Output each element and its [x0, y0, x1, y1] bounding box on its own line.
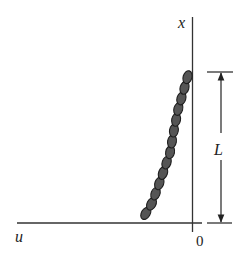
origin-label: 0	[196, 233, 204, 249]
x-axis-label: x	[177, 14, 185, 31]
u-axis-label: u	[15, 228, 23, 245]
hanging-chain-diagram: x u 0 L	[0, 0, 242, 266]
chain	[139, 70, 194, 222]
length-label: L	[213, 141, 223, 158]
